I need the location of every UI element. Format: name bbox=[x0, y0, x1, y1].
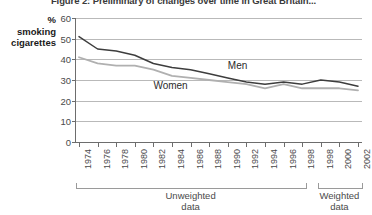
x-tick-label-1: 1976 bbox=[102, 149, 112, 169]
series-line-men bbox=[79, 37, 358, 87]
unweighted-group-label-line1: Unweighted bbox=[76, 190, 305, 201]
plot-area: 0102030405060 MenWomen bbox=[75, 18, 362, 142]
weighted-group-label-line2: data bbox=[318, 201, 361, 212]
x-tick-mark-3 bbox=[135, 143, 136, 147]
x-tick-mark-1 bbox=[98, 143, 99, 147]
y-tick-label-20: 20 bbox=[60, 95, 71, 106]
x-tick-mark-14 bbox=[339, 143, 340, 147]
x-tick-mark-10 bbox=[265, 143, 266, 147]
x-tick-label-15: 2002 bbox=[362, 149, 372, 169]
x-tick-label-3: 1980 bbox=[139, 149, 149, 169]
x-tick-mark-0 bbox=[79, 143, 80, 147]
x-tick-label-4: 1982 bbox=[157, 149, 167, 169]
series-layer bbox=[75, 18, 362, 142]
x-tick-label-10: 1994 bbox=[269, 149, 279, 169]
x-tick-mark-11 bbox=[284, 143, 285, 147]
x-tick-mark-13 bbox=[321, 143, 322, 147]
unweighted-group-label-line2: data bbox=[76, 201, 305, 212]
y-tick-label-10: 10 bbox=[60, 116, 71, 127]
figure-title: Figure 2: Preliminary of changes over ti… bbox=[0, 0, 367, 6]
x-tick-label-7: 1988 bbox=[213, 149, 223, 169]
weighted-group-label-line1: Weighted bbox=[318, 190, 361, 201]
x-tick-mark-6 bbox=[191, 143, 192, 147]
y-tick-label-30: 30 bbox=[60, 75, 71, 86]
x-tick-label-13: 1998 bbox=[325, 149, 335, 169]
x-tick-label-12: 1998 bbox=[306, 149, 316, 169]
y-axis-caption-line2: smoking bbox=[0, 26, 56, 38]
y-tick-label-60: 60 bbox=[60, 13, 71, 24]
y-tick-label-40: 40 bbox=[60, 54, 71, 65]
y-tick-label-50: 50 bbox=[60, 33, 71, 44]
x-tick-label-6: 1986 bbox=[195, 149, 205, 169]
x-tick-label-8: 1990 bbox=[232, 149, 242, 169]
x-tick-mark-5 bbox=[172, 143, 173, 147]
x-tick-mark-2 bbox=[116, 143, 117, 147]
series-line-women bbox=[79, 57, 358, 90]
x-tick-label-5: 1984 bbox=[176, 149, 186, 169]
x-tick-label-14: 2000 bbox=[343, 149, 353, 169]
x-tick-label-11: 1996 bbox=[288, 149, 298, 169]
unweighted-group-label: Unweighteddata bbox=[76, 190, 305, 212]
weighted-group-bracket bbox=[318, 183, 363, 189]
x-tick-mark-7 bbox=[209, 143, 210, 147]
y-axis-caption-line1: % bbox=[0, 14, 56, 26]
unweighted-group-bracket bbox=[76, 183, 307, 189]
series-label-men: Men bbox=[228, 60, 247, 71]
y-axis-caption-line3: cigarettes bbox=[0, 37, 56, 49]
x-tick-mark-8 bbox=[228, 143, 229, 147]
x-tick-label-2: 1978 bbox=[120, 149, 130, 169]
x-tick-mark-9 bbox=[246, 143, 247, 147]
y-axis-caption: % smoking cigarettes bbox=[0, 14, 56, 49]
y-tick-label-0: 0 bbox=[66, 137, 71, 148]
x-tick-mark-15 bbox=[358, 143, 359, 147]
series-label-women: Women bbox=[153, 80, 187, 91]
x-tick-mark-12 bbox=[302, 143, 303, 147]
x-tick-mark-4 bbox=[153, 143, 154, 147]
x-tick-label-0: 1974 bbox=[83, 149, 93, 169]
x-axis-line bbox=[75, 142, 362, 143]
weighted-group-label: Weighteddata bbox=[318, 190, 361, 212]
x-tick-label-9: 1992 bbox=[250, 149, 260, 169]
